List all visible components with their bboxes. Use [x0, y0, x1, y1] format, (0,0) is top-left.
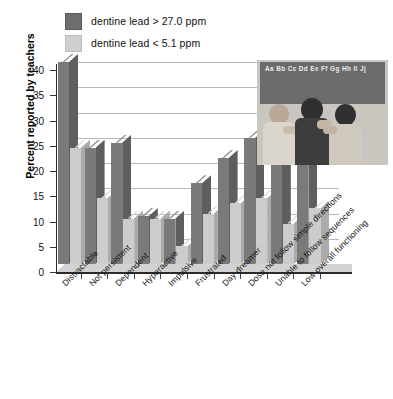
- x-tick-mark: [320, 274, 321, 279]
- x-tick-mark: [81, 274, 82, 279]
- chalkboard: Aa Bb Cc Dd Ee Ff Gg Hh Ii Jj: [260, 62, 385, 104]
- x-tick-mark: [134, 274, 135, 279]
- bar-low-6: [230, 203, 241, 264]
- child-head-3: [335, 104, 356, 126]
- y-tick-label: 35: [18, 90, 44, 101]
- bar-face: [150, 219, 161, 264]
- bar-high-6: [218, 158, 229, 264]
- bar-high-7: [244, 138, 255, 264]
- bar-low-3: [150, 219, 161, 264]
- bar-face: [191, 183, 202, 264]
- bar-face: [203, 214, 214, 265]
- y-tick-label: 40: [18, 65, 44, 76]
- x-tick-mark: [187, 274, 188, 279]
- bar-face: [58, 62, 69, 264]
- bar-low-5: [203, 214, 214, 265]
- y-tick-label: 0: [18, 267, 44, 278]
- x-tick-mark: [293, 274, 294, 279]
- y-tick-label: 5: [18, 241, 44, 252]
- y-tick-label: 15: [18, 191, 44, 202]
- bar-low-0: [70, 148, 81, 264]
- y-tick-label: 10: [18, 216, 44, 227]
- x-tick-mark: [214, 274, 215, 279]
- bar-high-0: [58, 62, 69, 264]
- bar-face: [244, 138, 255, 264]
- bar-face: [218, 158, 229, 264]
- bar-high-5: [191, 183, 202, 264]
- bar-face: [70, 148, 81, 264]
- bar-face: [85, 148, 96, 264]
- child-arm-3: [323, 126, 337, 134]
- chalkboard-text: Aa Bb Cc Dd Ee Ff Gg Hh Ii Jj: [265, 65, 366, 72]
- bar-high-1: [85, 148, 96, 264]
- y-tick-label: 25: [18, 140, 44, 151]
- y-axis-line: [56, 64, 57, 274]
- bar-face: [230, 203, 241, 264]
- y-tick-label: 30: [18, 115, 44, 126]
- x-tick-mark: [160, 274, 161, 279]
- x-tick-mark: [267, 274, 268, 279]
- child-head-1: [269, 104, 289, 124]
- y-tick-label: 20: [18, 166, 44, 177]
- classroom-photo-inset: Aa Bb Cc Dd Ee Ff Gg Hh Ii Jj: [257, 60, 388, 165]
